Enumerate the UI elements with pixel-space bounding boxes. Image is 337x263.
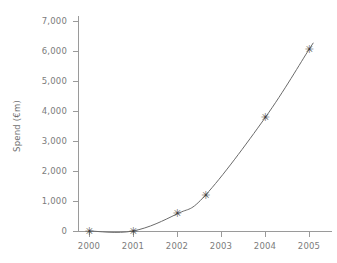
y-tick-label: 4,000 [42,106,67,116]
y-tick-label: 1,000 [42,196,67,206]
data-point-marker: ✳ [260,111,269,124]
x-tick-label: 2005 [298,241,320,251]
x-tick-label: 2001 [122,241,144,251]
x-tick-label: 2000 [78,241,100,251]
y-tick-label: 3,000 [42,136,67,146]
y-tick-label: 0 [61,226,67,236]
data-point-marker: ✳ [172,207,181,220]
data-point-marker: ✳ [84,225,93,238]
y-axis-title: Spend (€m) [12,100,22,152]
spend-line-chart: Spend (€m) 7,000 6,000 5,000 4,000 3,000… [0,0,337,263]
series-line-spend [89,43,313,233]
y-axis [73,16,79,232]
data-point-marker: ✳ [128,225,137,238]
y-tick-label: 6,000 [42,46,67,56]
y-tick-label: 5,000 [42,76,67,86]
x-tick-label: 2003 [210,241,232,251]
y-axis-title-text: Spend (€m) [12,100,22,152]
y-tick-label: 2,000 [42,166,67,176]
data-point-marker: ✳ [201,189,210,202]
x-tick-label: 2004 [254,241,276,251]
y-axis-tick-labels: 7,000 6,000 5,000 4,000 3,000 2,000 1,00… [42,16,67,236]
series-markers: ✳✳✳✳✳✳ [84,43,313,238]
y-tick-label: 7,000 [42,16,67,26]
data-point-marker: ✳ [304,43,313,56]
x-tick-label: 2002 [166,241,188,251]
chart-container: Spend (€m) 7,000 6,000 5,000 4,000 3,000… [0,0,337,263]
x-axis-tick-labels: 2000 2001 2002 2003 2004 2005 [78,241,320,251]
